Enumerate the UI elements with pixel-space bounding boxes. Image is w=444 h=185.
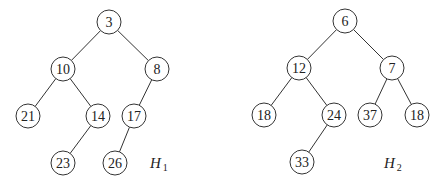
tree-label: H2 [383,155,402,173]
node-value: 6 [342,14,349,29]
tree-edge [375,79,387,104]
node-value: 8 [154,62,161,77]
node-value: 33 [295,155,309,170]
tree-edge [309,125,327,152]
tree-edge [35,79,56,107]
node-value: 24 [327,108,341,123]
tree-label: H1 [149,155,168,173]
tree-edge [118,30,149,60]
node-value: 18 [257,108,271,123]
heap-diagram: 31082114172326H161271824371833H2 [0,0,444,185]
node-value: 26 [108,156,122,171]
tree-node: 17 [122,104,146,128]
tree-h2: 61271824371833H2 [252,9,429,174]
node-value: 14 [91,109,105,124]
tree-node: 14 [86,104,110,128]
node-value: 37 [363,108,377,123]
node-value: 10 [56,62,70,77]
tree-edge [353,29,383,59]
node-value: 23 [56,156,70,171]
tree-node: 8 [145,57,169,81]
tree-node: 12 [287,56,311,80]
tree-node: 18 [405,103,429,127]
tree-edge [70,126,91,154]
tree-edge [306,78,327,106]
tree-edge [307,30,336,60]
node-value: 18 [410,108,424,123]
tree-node: 3 [97,10,121,34]
tree-edge [139,80,151,105]
tree-node: 26 [103,151,127,175]
node-value: 7 [389,61,396,76]
tree-node: 23 [51,151,75,175]
tree-node: 7 [380,56,404,80]
tree-edge [398,79,412,105]
node-value: 12 [292,61,306,76]
tree-edge [271,78,292,106]
heap-diagram-svg: 31082114172326H161271824371833H2 [0,0,444,185]
tree-node: 24 [322,103,346,127]
node-value: 17 [127,109,141,124]
node-value: 3 [106,15,113,30]
tree-h1: 31082114172326H1 [16,10,169,175]
tree-node: 10 [51,57,75,81]
tree-node: 21 [16,104,40,128]
tree-node: 33 [290,150,314,174]
node-value: 21 [21,109,35,124]
tree-edge [119,127,129,152]
tree-node: 37 [358,103,382,127]
tree-node: 18 [252,103,276,127]
tree-node: 6 [333,9,357,33]
tree-edge [70,79,91,107]
tree-edge [71,31,100,61]
